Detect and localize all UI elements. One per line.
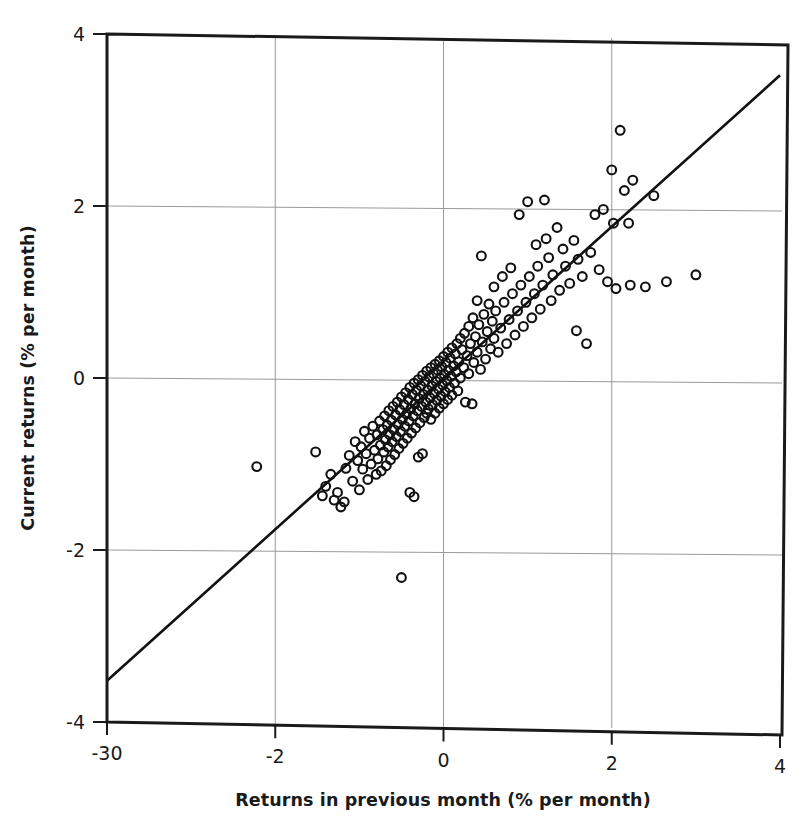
x-tick-label: 0 [437,749,449,771]
y-tick-label: -2 [66,539,85,561]
y-tick-label: 2 [73,195,85,217]
x-tick-label: -2 [266,745,285,767]
x-tick-label: 4 [774,755,786,777]
x-axis-tick-labels: -30-2024 [91,742,786,777]
chart-canvas: -30-2024 420-2-4 Returns in previous mon… [0,0,806,830]
y-tick-label: -4 [66,711,85,733]
x-tick-label: -30 [91,742,122,764]
x-tick-label: 2 [606,752,618,774]
scatter-plot-figure: -30-2024 420-2-4 Returns in previous mon… [0,0,806,830]
x-axis-title: Returns in previous month (% per month) [235,790,651,810]
y-axis-title: Current returns (% per month) [18,225,38,530]
y-axis-tick-labels: 420-2-4 [66,23,85,733]
y-tick-label: 4 [73,23,85,45]
y-tick-label: 0 [73,367,85,389]
